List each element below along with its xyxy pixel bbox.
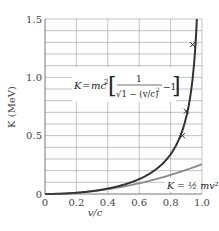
grid [45, 19, 202, 194]
bracket-right: ] [172, 73, 181, 98]
formula-lhs: K [73, 80, 82, 91]
data-point-marker [190, 42, 195, 47]
x-tick-label: 0.6 [131, 197, 147, 208]
x-tick-label: 0.2 [68, 197, 84, 208]
relativistic-curve [45, 19, 197, 194]
y-tick-label: 1.5 [26, 14, 42, 25]
formula-denominator: √1 − (v/c) [116, 89, 158, 99]
classical-formula-label: K = ½ mv² [165, 178, 219, 192]
formula-equals: = [82, 80, 90, 91]
relativistic-formula-label: K = mc 2 [ 1 √1 − (v/c) 2 −1 ] [72, 67, 181, 102]
y-tick-label: 1.0 [26, 72, 42, 83]
classical-formula: K = ½ mv² [166, 180, 219, 191]
x-tick-label: 1.0 [194, 197, 210, 208]
y-axis-label: K (MeV) [6, 86, 17, 128]
formula-numerator: 1 [136, 74, 142, 84]
x-axis-label: v/c [88, 207, 103, 218]
axes [45, 19, 202, 194]
formula-den-sup: 2 [156, 86, 160, 93]
x-tick-label: 0 [42, 197, 48, 208]
y-tick-label: 0.5 [26, 130, 42, 141]
kinetic-energy-chart: 00.20.40.60.81.000.51.01.5 K = mc 2 [ 1 … [0, 0, 219, 231]
curves [45, 19, 202, 194]
y-tick-label: 0 [36, 189, 42, 200]
x-tick-label: 0.8 [163, 197, 179, 208]
